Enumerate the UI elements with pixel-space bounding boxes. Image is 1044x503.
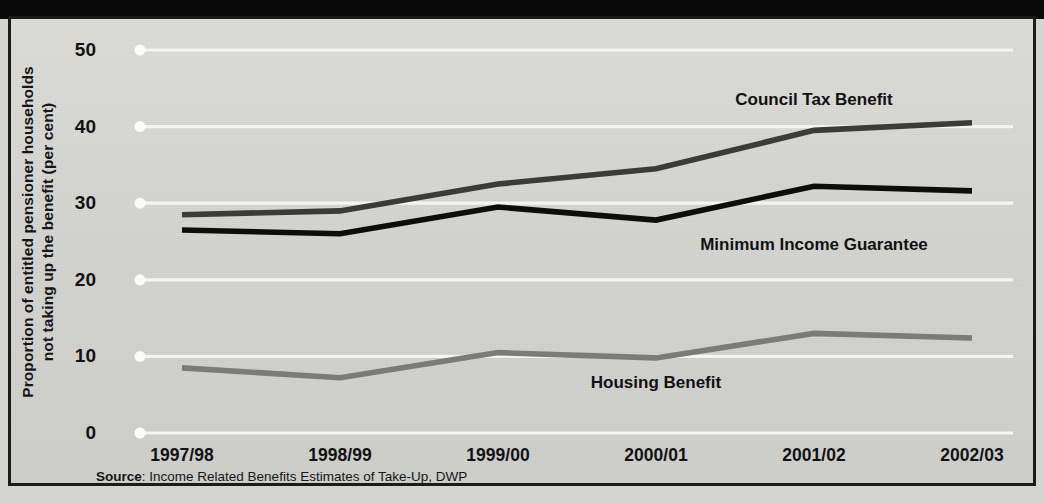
source-text: Income Related Benefits Estimates of Tak…: [149, 469, 467, 484]
chart-figure: Proportion of entitled pensioner househo…: [0, 0, 1044, 503]
series-annotation: Council Tax Benefit: [735, 90, 892, 110]
x-tick-label: 1999/00: [466, 445, 529, 466]
x-tick-label: 1997/98: [150, 445, 213, 466]
x-tick-label: 2000/01: [624, 445, 687, 466]
y-tick-label: 40: [48, 116, 96, 138]
source-prefix: Source: [96, 469, 142, 484]
y-tick-label: 10: [48, 345, 96, 367]
y-tick-label: 0: [48, 422, 96, 444]
y-tick-marker: [135, 198, 146, 209]
x-tick-label: 2001/02: [782, 445, 845, 466]
y-tick-marker: [135, 45, 146, 56]
x-tick-label: 1998/99: [308, 445, 371, 466]
y-tick-label: 20: [48, 269, 96, 291]
x-tick-label: 2002/03: [940, 445, 1003, 466]
series-annotation: Housing Benefit: [591, 373, 721, 393]
y-tick-marker: [135, 351, 146, 362]
y-tick-label: 30: [48, 192, 96, 214]
series-line: [182, 123, 972, 215]
y-tick-marker: [135, 428, 146, 439]
y-tick-label: 50: [48, 39, 96, 61]
y-tick-marker: [135, 274, 146, 285]
y-tick-marker: [135, 121, 146, 132]
source-note: Source: Income Related Benefits Estimate…: [96, 469, 467, 484]
series-annotation: Minimum Income Guarantee: [700, 235, 928, 255]
